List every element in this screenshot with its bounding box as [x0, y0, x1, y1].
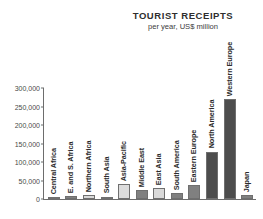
y-axis-tick-label: 250,000 — [15, 103, 40, 110]
bar-group: Asia-Pacific — [115, 88, 133, 199]
bars-container: Central AfricaE. and S. AfricaNorthern A… — [45, 88, 256, 199]
bar-category-label: Northern Africa — [85, 141, 92, 193]
chart-subtitle: per year, US$ million — [113, 22, 253, 32]
chart-title-block: TOURIST RECEIPTS per year, US$ million — [113, 10, 253, 32]
y-axis: 300,000250,000200,000150,000100,00050,00… — [0, 86, 44, 199]
bar[interactable] — [153, 188, 165, 199]
bar[interactable] — [241, 195, 253, 199]
bar-category-label: South America — [173, 140, 180, 190]
bar-group: North America — [203, 88, 221, 199]
bar-category-label: Eastern Europe — [191, 130, 198, 183]
y-axis-line — [43, 88, 44, 199]
bar-group: Japan — [238, 88, 256, 199]
tourist-receipts-chart: TOURIST RECEIPTS per year, US$ million 3… — [0, 0, 263, 219]
bar[interactable] — [206, 152, 218, 199]
bar-category-label: South Asia — [103, 157, 110, 194]
bar-group: Middle East — [133, 88, 151, 199]
bar[interactable] — [224, 99, 236, 199]
bar-group: Western Europe — [221, 88, 239, 199]
y-axis-tick-label: 50,000 — [19, 177, 40, 184]
plot-area: 300,000250,000200,000150,000100,00050,00… — [0, 86, 263, 206]
bar-category-label: Western Europe — [226, 42, 233, 96]
bar[interactable] — [83, 195, 95, 199]
x-axis-line — [43, 199, 256, 200]
bar-group: East Asia — [150, 88, 168, 199]
bar-category-label: North America — [208, 100, 215, 149]
bar[interactable] — [171, 193, 183, 199]
page-title: TOURIST RECEIPTS — [113, 10, 253, 21]
bar-category-label: Asia-Pacific — [120, 141, 127, 181]
bar-group: South Asia — [98, 88, 116, 199]
y-axis-tick-label: 200,000 — [15, 122, 40, 129]
bar-group: Eastern Europe — [186, 88, 204, 199]
bar[interactable] — [101, 197, 113, 199]
bar[interactable] — [48, 197, 60, 199]
bar-category-label: Middle East — [138, 148, 145, 187]
y-axis-tick-label: 100,000 — [15, 159, 40, 166]
bar-category-label: East Asia — [156, 153, 163, 185]
bar-group: Northern Africa — [80, 88, 98, 199]
bar-group: Central Africa — [45, 88, 63, 199]
bar[interactable] — [65, 196, 77, 199]
bar-category-label: E. and S. Africa — [68, 142, 75, 194]
y-axis-tick-label: 150,000 — [15, 140, 40, 147]
bar-category-label: Japan — [243, 172, 250, 193]
bar[interactable] — [188, 185, 200, 199]
bar[interactable] — [136, 190, 148, 199]
bar-category-label: Central Africa — [50, 148, 57, 194]
y-axis-tick-label: 300,000 — [15, 85, 40, 92]
bar-group: E. and S. Africa — [63, 88, 81, 199]
y-axis-tick-label: 0 — [36, 196, 40, 203]
bar[interactable] — [118, 184, 130, 199]
bar-group: South America — [168, 88, 186, 199]
